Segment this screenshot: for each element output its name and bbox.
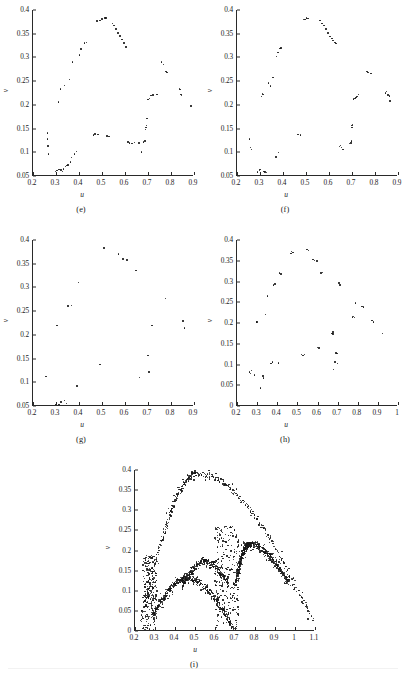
x-tick-label: 0.6 xyxy=(120,409,129,416)
y-tick-label: 0.25 xyxy=(108,527,131,534)
x-tickmark xyxy=(315,627,316,630)
x-tickmark xyxy=(33,402,34,405)
y-tick-label: 0.4 xyxy=(6,236,29,243)
y-tick-label: 0.35 xyxy=(6,260,29,267)
y-tickmark xyxy=(33,263,36,264)
x-axis-label-e: u xyxy=(72,190,92,199)
y-tick-label: 0.4 xyxy=(6,6,29,13)
y-tick-label: 0.05 xyxy=(6,172,29,179)
x-tick-label: 0.9 xyxy=(189,179,198,186)
x-tick-label: 0.6 xyxy=(210,634,219,641)
x-tickmark xyxy=(148,172,149,175)
x-tickmark xyxy=(102,172,103,175)
y-tick-label: 0.05 xyxy=(108,607,131,614)
points-layer-g xyxy=(33,240,193,405)
x-tick-label: 0.9 xyxy=(393,179,402,186)
x-tick-label: 0.8 xyxy=(166,409,175,416)
x-tickmark xyxy=(79,402,80,405)
y-tickmark xyxy=(237,33,240,34)
y-tick-label: 0.15 xyxy=(210,125,233,132)
points-layer-f xyxy=(237,10,397,175)
x-tickmark xyxy=(255,627,256,630)
x-tick-label: 0.4 xyxy=(74,409,83,416)
panel-g: 0.050.10.150.20.250.30.350.40.20.30.40.5… xyxy=(0,0,405,676)
y-tickmark xyxy=(237,385,240,386)
y-tickmark xyxy=(135,470,138,471)
y-tick-label: 0.15 xyxy=(108,567,131,574)
y-tick-label: 0.4 xyxy=(210,236,233,243)
x-tick-label: 0.5 xyxy=(97,179,106,186)
x-tickmark xyxy=(358,402,359,405)
x-tick-label: 0.5 xyxy=(190,634,199,641)
x-tickmark xyxy=(171,402,172,405)
x-tickmark xyxy=(79,172,80,175)
x-tick-label: 0.3 xyxy=(150,634,159,641)
y-tickmark xyxy=(237,260,240,261)
x-tick-label: 0.3 xyxy=(51,179,60,186)
x-tickmark xyxy=(148,402,149,405)
x-tick-label: 0.7 xyxy=(230,634,239,641)
points-layer-i xyxy=(135,470,314,630)
plot-area-f xyxy=(236,10,397,176)
x-tick-label: 0.8 xyxy=(250,634,259,641)
y-tick-label: 0.15 xyxy=(6,125,29,132)
x-tick-label: 0.2 xyxy=(28,179,37,186)
scan-smudge xyxy=(8,668,398,669)
x-tick-label: 0.5 xyxy=(301,179,310,186)
x-tickmark xyxy=(215,627,216,630)
y-tickmark xyxy=(33,240,36,241)
x-tick-label: 0.7 xyxy=(143,409,152,416)
panel-caption-g: (g) xyxy=(51,435,111,444)
y-tickmark xyxy=(33,334,36,335)
y-tick-label: 0.1 xyxy=(108,587,131,594)
y-tickmark xyxy=(237,10,240,11)
x-tickmark xyxy=(56,402,57,405)
y-axis-label-i: v xyxy=(103,538,112,558)
y-tickmark xyxy=(135,550,138,551)
x-tick-label: 0.5 xyxy=(97,409,106,416)
x-tick-label: 0.3 xyxy=(255,179,264,186)
x-tick-label: 0.6 xyxy=(312,409,321,416)
y-tick-label: 0.3 xyxy=(210,54,233,61)
x-tickmark xyxy=(33,172,34,175)
y-tick-label: 0.1 xyxy=(210,361,233,368)
y-tick-label: 0.35 xyxy=(210,257,233,264)
x-tick-label: 0.2 xyxy=(232,179,241,186)
y-tick-label: 0.35 xyxy=(6,30,29,37)
x-tickmark xyxy=(338,402,339,405)
y-tickmark xyxy=(33,81,36,82)
x-tick-label: 0.4 xyxy=(74,179,83,186)
x-axis-label-f: u xyxy=(276,190,296,199)
x-tick-label: 1 xyxy=(395,409,399,416)
y-tick-label: 0.25 xyxy=(6,307,29,314)
y-tick-label: 0.2 xyxy=(108,547,131,554)
y-tickmark xyxy=(33,104,36,105)
y-axis-label-f: v xyxy=(205,81,214,101)
x-tickmark xyxy=(260,172,261,175)
x-tick-label: 0.3 xyxy=(51,409,60,416)
x-tickmark xyxy=(175,627,176,630)
x-tickmark xyxy=(125,172,126,175)
x-tickmark xyxy=(318,402,319,405)
y-tickmark xyxy=(237,281,240,282)
y-tick-label: 0.2 xyxy=(210,101,233,108)
points-layer-h xyxy=(237,240,397,405)
x-tick-label: 0.7 xyxy=(332,409,341,416)
x-tick-label: 0.5 xyxy=(292,409,301,416)
y-tickmark xyxy=(33,33,36,34)
y-tick-label: 0.05 xyxy=(210,172,233,179)
y-tickmark xyxy=(33,176,36,177)
y-tick-label: 0.3 xyxy=(6,54,29,61)
x-tickmark xyxy=(275,627,276,630)
x-tickmark xyxy=(378,402,379,405)
y-tickmark xyxy=(237,364,240,365)
x-tickmark xyxy=(155,627,156,630)
y-tickmark xyxy=(237,343,240,344)
y-tickmark xyxy=(135,570,138,571)
y-tickmark xyxy=(237,302,240,303)
plot-area-i xyxy=(134,470,314,631)
y-tickmark xyxy=(237,128,240,129)
x-tickmark xyxy=(306,172,307,175)
y-tick-label: 0.15 xyxy=(6,355,29,362)
x-tick-label: 0.2 xyxy=(232,409,241,416)
